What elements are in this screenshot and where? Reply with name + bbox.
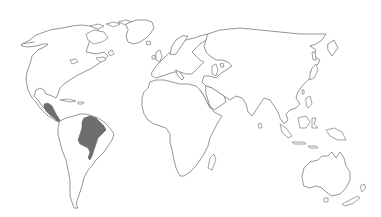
- lesser-sunda: [308, 146, 318, 148]
- new-guinea: [326, 128, 346, 140]
- philippines: [306, 96, 312, 108]
- ireland: [152, 55, 155, 59]
- borneo: [298, 116, 310, 128]
- sri-lanka: [258, 123, 262, 128]
- arctic-island-2: [106, 22, 120, 27]
- sumatra: [280, 124, 292, 138]
- madagascar: [208, 154, 216, 170]
- caspian-sea: [212, 64, 218, 76]
- cuba: [60, 99, 76, 102]
- kamchatka: [328, 40, 338, 56]
- iceland: [146, 41, 151, 45]
- great-britain: [156, 50, 162, 62]
- new-zealand-south: [342, 196, 360, 206]
- australia: [302, 152, 350, 196]
- world-map: Central America / Southern Mexico Amazon…: [0, 0, 381, 217]
- newfoundland: [108, 50, 114, 56]
- java: [292, 142, 306, 144]
- hispaniola: [78, 102, 84, 104]
- aral-sea: [220, 63, 224, 67]
- asia: [202, 28, 326, 124]
- taiwan: [302, 90, 304, 94]
- world-map-svg: [0, 0, 381, 217]
- sakhalin: [312, 52, 316, 60]
- tasmania: [324, 198, 328, 202]
- new-zealand-north: [360, 184, 366, 192]
- greenland: [126, 20, 154, 44]
- sulawesi: [312, 118, 318, 128]
